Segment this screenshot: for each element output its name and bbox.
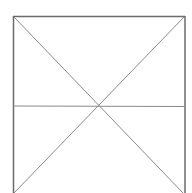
placeholder-diagram: [0, 0, 192, 193]
canvas-background: [0, 0, 192, 193]
